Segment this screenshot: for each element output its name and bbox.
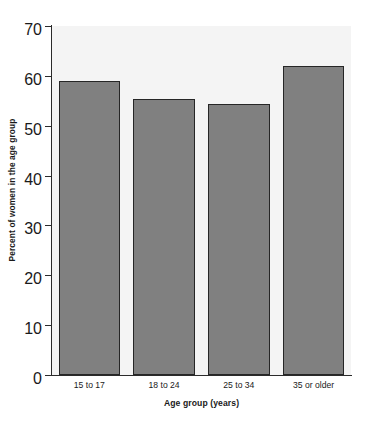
y-axis-tick-mark [45, 126, 51, 127]
x-axis-tick-label: 18 to 24 [127, 379, 202, 391]
bar [59, 81, 120, 375]
y-axis-tick-mark [45, 275, 51, 276]
y-axis-tick-label: 40 [8, 171, 42, 181]
y-axis-tick-label: 70 [8, 21, 42, 31]
bar [133, 99, 194, 375]
bar [208, 104, 269, 375]
y-axis-tick-mark [45, 225, 51, 226]
y-axis-tick-label: 0 [8, 370, 42, 380]
bar-chart-figure: Percent of women in the age group 010203… [0, 0, 374, 433]
y-axis-tick-mark [45, 176, 51, 177]
bar [283, 66, 344, 375]
y-axis-tick-labels: 010203040506070 [0, 0, 52, 433]
y-axis-tick-label: 10 [8, 320, 42, 330]
x-axis-line [51, 375, 352, 376]
y-axis-tick-label: 60 [8, 71, 42, 81]
y-axis-tick-label: 50 [8, 121, 42, 131]
y-axis-tick-mark [45, 26, 51, 27]
x-axis-title: Age group (years) [52, 398, 351, 408]
y-axis-tick-label: 20 [8, 270, 42, 280]
y-axis-tick-mark [45, 76, 51, 77]
y-axis-tick-mark [45, 325, 51, 326]
x-axis-tick-label: 15 to 17 [52, 379, 127, 391]
x-axis-tick-label: 25 to 34 [202, 379, 277, 391]
y-axis-tick-label: 30 [8, 220, 42, 230]
y-axis-tick-mark [45, 375, 51, 376]
x-axis-tick-label: 35 or older [276, 379, 351, 391]
